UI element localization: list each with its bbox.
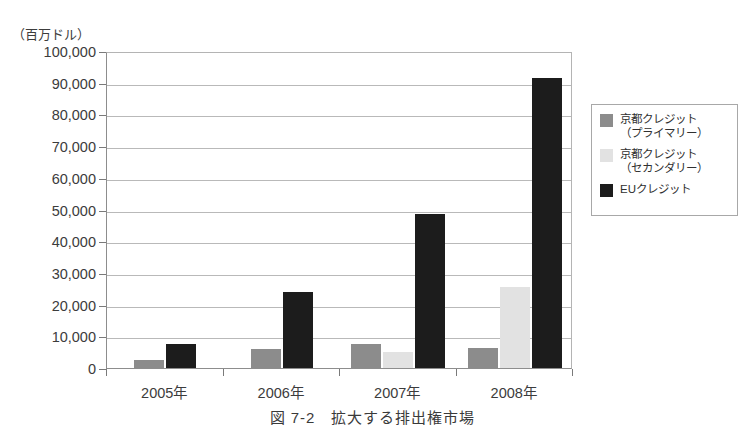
- y-axis-labels: 100,00090,00080,00070,00060,00050,00040,…: [0, 0, 96, 427]
- y-axis-tick-label: 60,000: [8, 171, 96, 187]
- y-axis-tick-label: 10,000: [8, 329, 96, 345]
- bar-primary-2006年: [251, 349, 281, 368]
- gridline: [107, 85, 571, 86]
- legend-swatch-secondary-icon: [600, 149, 613, 162]
- gridline: [107, 212, 571, 213]
- bar-primary-2005年: [134, 360, 164, 368]
- y-axis-tick-label: 30,000: [8, 266, 96, 282]
- y-axis-tick-label: 0: [8, 361, 96, 377]
- chart-legend: 京都クレジット （プライマリー）京都クレジット （セカンダリー）EUクレジット: [591, 104, 738, 216]
- bar-eu-2008年: [532, 78, 562, 368]
- figure-container: （百万ドル） 100,00090,00080,00070,00060,00050…: [0, 0, 745, 427]
- y-axis-tick: [99, 179, 106, 180]
- y-axis-tick: [99, 242, 106, 243]
- y-axis-tick: [99, 306, 106, 307]
- bar-eu-2005年: [166, 344, 196, 368]
- y-axis-tick: [99, 52, 106, 53]
- y-axis-tick-label: 40,000: [8, 234, 96, 250]
- y-axis-tick-label: 100,000: [8, 44, 96, 60]
- legend-item-eu: EUクレジット: [600, 182, 731, 197]
- y-axis-tick-label: 50,000: [8, 203, 96, 219]
- y-axis-tick: [99, 115, 106, 116]
- gridline: [107, 243, 571, 244]
- x-axis-label-2008年: 2008年: [491, 381, 537, 402]
- legend-swatch-primary-icon: [600, 114, 613, 127]
- gridline: [107, 275, 571, 276]
- bar-eu-2006年: [283, 292, 313, 368]
- x-axis-ticks: [106, 369, 572, 379]
- y-axis-tick: [99, 84, 106, 85]
- gridline: [107, 180, 571, 181]
- x-axis-label-2005年: 2005年: [141, 381, 187, 402]
- y-axis-tick-label: 90,000: [8, 76, 96, 92]
- bar-secondary-2007年: [383, 352, 413, 368]
- plot-area: [106, 52, 572, 369]
- bar-primary-2008年: [468, 348, 498, 368]
- legend-label-eu: EUクレジット: [620, 182, 691, 196]
- bar-eu-2007年: [415, 214, 445, 368]
- legend-item-primary: 京都クレジット （プライマリー）: [600, 112, 731, 140]
- y-axis-tick-label: 20,000: [8, 298, 96, 314]
- y-axis-tick: [99, 369, 106, 370]
- gridline: [107, 148, 571, 149]
- gridline: [107, 116, 571, 117]
- legend-item-secondary: 京都クレジット （セカンダリー）: [600, 147, 731, 175]
- y-axis-tick-label: 70,000: [8, 139, 96, 155]
- legend-swatch-eu-icon: [600, 184, 613, 197]
- y-axis-tick: [99, 337, 106, 338]
- legend-label-secondary: 京都クレジット （セカンダリー）: [620, 147, 708, 175]
- x-axis-separator: [456, 369, 457, 376]
- x-axis-label-2006年: 2006年: [258, 381, 304, 402]
- x-axis-separator: [223, 369, 224, 376]
- y-axis-tick-label: 80,000: [8, 107, 96, 123]
- y-axis-tick: [99, 274, 106, 275]
- legend-label-primary: 京都クレジット （プライマリー）: [620, 112, 708, 140]
- x-axis-label-2007年: 2007年: [374, 381, 420, 402]
- bar-primary-2007年: [351, 344, 381, 368]
- figure-caption: 図 7-2 拡大する排出権市場: [0, 406, 745, 427]
- x-axis-separator: [106, 369, 107, 376]
- y-axis-tick: [99, 211, 106, 212]
- y-axis-tick: [99, 147, 106, 148]
- x-axis-separator: [339, 369, 340, 376]
- x-axis-separator: [572, 369, 573, 376]
- bar-secondary-2008年: [500, 287, 530, 368]
